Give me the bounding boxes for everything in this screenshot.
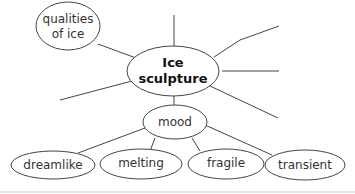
node-melting: melting (100, 149, 182, 179)
edge-mood-to-fragile (192, 138, 200, 151)
edge-central-to-lower-right-empty (210, 86, 278, 118)
node-transient: transient (265, 150, 345, 180)
node-qualities-line1: qualities (43, 12, 94, 26)
central-line1: Ice (162, 55, 184, 70)
edge-central-to-left-empty (60, 81, 132, 100)
edge-central-to-upper-right-empty-2 (214, 40, 240, 57)
node-transient-label: transient (278, 158, 332, 172)
node-fragile-label: fragile (207, 156, 245, 170)
node-qualities-line2: of ice (52, 27, 85, 41)
node-melting-label: melting (118, 156, 164, 170)
node-mood: mood (143, 105, 207, 139)
node-dreamlike: dreamlike (11, 151, 95, 179)
node-mood-label: mood (158, 115, 192, 129)
node-fragile: fragile (188, 149, 264, 179)
mind-map-diagram: qualities of ice Ice sculpture mood drea… (0, 0, 355, 194)
edge-central-to-qualities (98, 44, 136, 58)
edge-central-to-upper-right-empty (240, 26, 279, 40)
node-dreamlike-label: dreamlike (23, 158, 82, 172)
node-central-ice-sculpture: Ice sculpture (127, 46, 219, 96)
node-qualities-of-ice: qualities of ice (36, 2, 100, 50)
central-line2: sculpture (138, 71, 207, 86)
